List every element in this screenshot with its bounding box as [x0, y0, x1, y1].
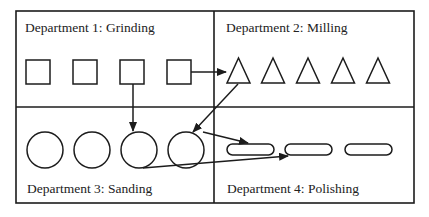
- sanding-machine-circle-icon: [27, 132, 63, 168]
- grinding-machine-square-icon: [26, 60, 50, 84]
- sanding-machine-circle-icon: [121, 132, 157, 168]
- grinding-machines: [26, 60, 191, 84]
- milling-machine-triangle-icon: [367, 58, 390, 83]
- polishing-machines: [227, 144, 392, 155]
- grinding-machine-square-icon: [120, 60, 144, 84]
- flow-arrow-milling-to-sanding: [193, 84, 238, 132]
- milling-machines: [227, 58, 390, 83]
- sanding-machines: [27, 132, 204, 168]
- sanding-machine-circle-icon: [74, 132, 110, 168]
- milling-machine-triangle-icon: [227, 58, 250, 83]
- grinding-machine-square-icon: [167, 60, 191, 84]
- milling-machine-triangle-icon: [262, 58, 285, 83]
- department-layout-diagram: Department 1: Grinding Department 2: Mil…: [0, 0, 429, 217]
- department-3-label: Department 3: Sanding: [27, 181, 152, 196]
- milling-machine-triangle-icon: [297, 58, 320, 83]
- milling-machine-triangle-icon: [332, 58, 355, 83]
- polishing-machine-bar-icon: [227, 144, 274, 155]
- flow-arrow-sanding-to-polishing-1: [203, 132, 248, 143]
- layout-frame: [16, 11, 414, 203]
- polishing-machine-bar-icon: [345, 144, 392, 155]
- department-4-label: Department 4: Polishing: [227, 181, 359, 196]
- grinding-machine-square-icon: [73, 60, 97, 84]
- polishing-machine-bar-icon: [285, 144, 332, 155]
- department-2-label: Department 2: Milling: [226, 20, 348, 35]
- sanding-machine-circle-icon: [168, 132, 204, 168]
- department-1-label: Department 1: Grinding: [25, 20, 155, 35]
- flow-arrow-sanding-to-polishing-2: [143, 156, 288, 168]
